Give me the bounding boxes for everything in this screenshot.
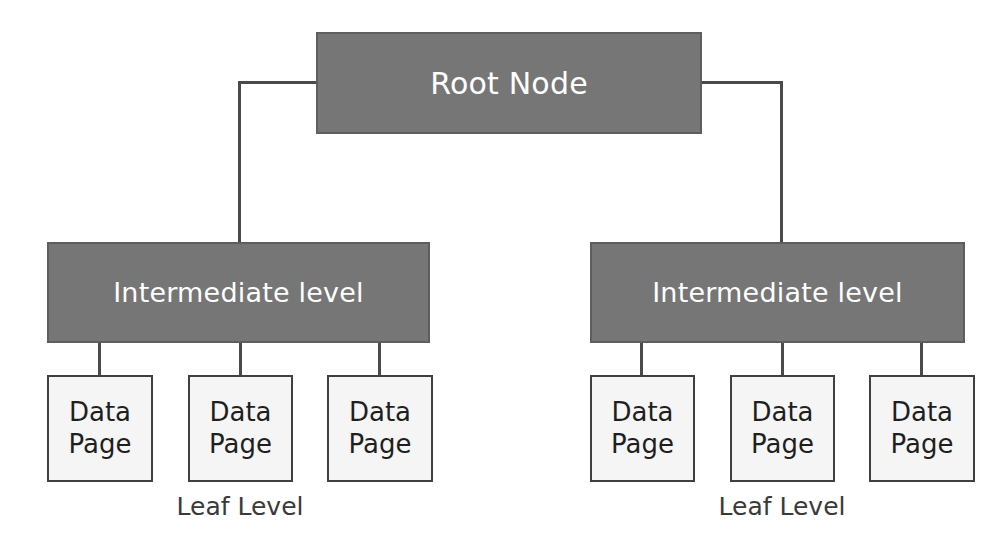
leaf-node-data-page-4[interactable]: Data Page bbox=[590, 375, 695, 482]
intermediate-node-left[interactable]: Intermediate level bbox=[47, 242, 430, 343]
connector-root-to-right-intermediate-horizontal bbox=[700, 81, 783, 84]
connector-right-intermediate-to-leaf-2 bbox=[781, 341, 784, 377]
leaf-node-data-page-1-line1: Data bbox=[69, 397, 131, 429]
root-node-label: Root Node bbox=[430, 67, 588, 100]
leaf-node-data-page-3-line1: Data bbox=[349, 397, 411, 429]
leaf-node-data-page-2[interactable]: Data Page bbox=[188, 375, 293, 482]
connector-left-intermediate-to-leaf-1 bbox=[98, 341, 101, 377]
intermediate-node-right-label: Intermediate level bbox=[652, 278, 903, 308]
leaf-node-data-page-2-line2: Page bbox=[209, 429, 272, 461]
connector-root-to-right-intermediate-vertical bbox=[780, 81, 783, 244]
connector-root-to-left-intermediate-vertical bbox=[238, 81, 241, 244]
leaf-node-data-page-1[interactable]: Data Page bbox=[47, 375, 153, 482]
leaf-node-data-page-4-line1: Data bbox=[611, 397, 673, 429]
leaf-node-data-page-6-line2: Page bbox=[891, 429, 954, 461]
leaf-node-data-page-4-line2: Page bbox=[611, 429, 674, 461]
leaf-node-data-page-5-line1: Data bbox=[751, 397, 813, 429]
leaf-node-data-page-3-line2: Page bbox=[349, 429, 412, 461]
leaf-node-data-page-5[interactable]: Data Page bbox=[730, 375, 835, 482]
caption-leaf-level-right: Leaf Level bbox=[682, 492, 882, 521]
intermediate-node-right[interactable]: Intermediate level bbox=[590, 242, 965, 343]
leaf-node-data-page-1-line2: Page bbox=[69, 429, 132, 461]
leaf-node-data-page-3[interactable]: Data Page bbox=[327, 375, 433, 482]
connector-left-intermediate-to-leaf-2 bbox=[239, 341, 242, 377]
connector-root-to-left-intermediate-horizontal bbox=[238, 81, 318, 84]
leaf-node-data-page-5-line2: Page bbox=[751, 429, 814, 461]
connector-left-intermediate-to-leaf-3 bbox=[378, 341, 381, 377]
caption-leaf-level-left: Leaf Level bbox=[140, 492, 340, 521]
leaf-node-data-page-6[interactable]: Data Page bbox=[869, 375, 975, 482]
root-node[interactable]: Root Node bbox=[316, 32, 702, 134]
diagram-canvas: Root Node Intermediate level Intermediat… bbox=[0, 0, 1008, 548]
intermediate-node-left-label: Intermediate level bbox=[113, 278, 364, 308]
connector-right-intermediate-to-leaf-1 bbox=[640, 341, 643, 377]
leaf-node-data-page-2-line1: Data bbox=[209, 397, 271, 429]
leaf-node-data-page-6-line1: Data bbox=[891, 397, 953, 429]
connector-right-intermediate-to-leaf-3 bbox=[920, 341, 923, 377]
